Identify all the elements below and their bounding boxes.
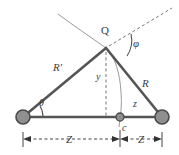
diagram-canvas: Q φ θ R′ R y z c Z Z: [0, 0, 179, 155]
label-side-r-prime: R′: [52, 61, 63, 73]
mass-node-right: [155, 110, 169, 124]
side-r-prime: [23, 48, 106, 117]
angle-arc-phi: [127, 34, 132, 56]
reference-ray-dashed: [109, 8, 172, 46]
label-dim-left-z: Z: [66, 133, 73, 145]
label-angle-phi: φ: [133, 37, 139, 49]
conic-curve: [58, 14, 121, 127]
label-angle-theta: θ: [39, 97, 44, 108]
label-center-c: c: [122, 122, 127, 133]
dim-arrow-right-end: [154, 136, 162, 142]
label-dim-right-z: Z: [138, 133, 145, 145]
dim-arrow-left-start: [23, 136, 31, 142]
label-side-r: R: [141, 77, 149, 89]
geometry-diagram: Q φ θ R′ R y z c Z Z: [0, 0, 179, 155]
label-offset-z: z: [132, 98, 137, 109]
center-node: [116, 113, 124, 121]
label-height-y: y: [95, 71, 101, 82]
label-apex-q: Q: [101, 24, 109, 36]
mass-node-left: [16, 110, 30, 124]
dim-arrow-right-start: [120, 136, 128, 142]
dim-arrow-left-end: [112, 136, 120, 142]
